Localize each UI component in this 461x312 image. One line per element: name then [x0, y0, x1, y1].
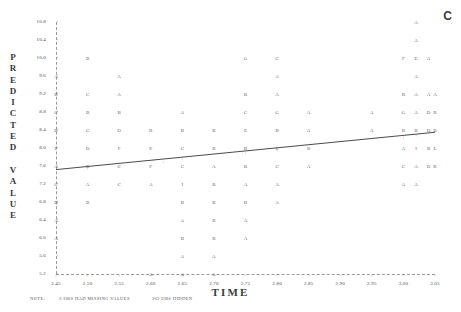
data-point: B — [275, 128, 278, 133]
y-tick-label: 7.2 — [39, 180, 46, 188]
fit-plus-marker: + — [86, 166, 89, 171]
data-point: B — [149, 128, 152, 133]
data-point: B — [244, 92, 247, 97]
data-point: A — [402, 182, 406, 187]
scatter-plot-root: C P R E D I C T E D V A L U E 10.8+10.4+… — [0, 0, 461, 312]
x-tick: +2.75 — [241, 274, 251, 286]
data-point: C — [54, 110, 57, 115]
data-point: B — [212, 146, 215, 151]
data-point: A — [427, 56, 431, 61]
corner-letter-c: C — [443, 9, 452, 23]
y-tick-label: 6.4 — [39, 216, 46, 224]
fit-plus-marker: + — [162, 159, 165, 164]
data-point: A — [54, 218, 58, 223]
data-point: B — [86, 110, 89, 115]
data-point: C — [117, 182, 120, 187]
data-point: A — [414, 110, 418, 115]
data-point: F — [118, 146, 121, 151]
x-tick-mark: + — [335, 274, 345, 278]
data-point: A — [149, 182, 153, 187]
data-point: B — [212, 128, 215, 133]
data-point: B — [402, 92, 405, 97]
data-point: A — [244, 218, 248, 223]
data-point: A — [54, 236, 58, 241]
data-point: C — [275, 56, 278, 61]
fit-plus-marker: + — [402, 134, 405, 139]
footnote-label: NOTE: — [30, 296, 45, 301]
fit-plus-marker: + — [118, 164, 121, 169]
data-point: A — [427, 92, 431, 97]
data-point: B — [433, 110, 436, 115]
data-point: C — [275, 164, 278, 169]
y-tick-mark: + — [55, 18, 60, 26]
data-point: A — [275, 74, 279, 79]
fit-plus-marker: + — [415, 133, 418, 138]
data-point: G — [402, 110, 406, 115]
data-point: E — [244, 128, 247, 133]
y-tick-label: 9.6 — [39, 72, 46, 80]
data-point: B — [427, 146, 430, 151]
x-tick-mark: + — [304, 274, 314, 278]
data-point: D — [427, 128, 431, 133]
data-point: D — [86, 146, 90, 151]
data-point: A — [181, 218, 185, 223]
footnote: NOTE:6 OBS HAD MISSING VALUES363 OBS HID… — [30, 296, 192, 301]
data-point: A — [414, 20, 418, 25]
data-point: D — [54, 200, 58, 205]
data-point: B — [54, 92, 57, 97]
x-tick: +2.55 — [114, 274, 124, 286]
y-tick-label: 6.8 — [39, 198, 46, 206]
data-point: A — [212, 272, 216, 277]
x-tick-mark: + — [367, 274, 377, 278]
data-point: A — [149, 272, 153, 277]
y-tick-mark: + — [55, 252, 60, 260]
data-point: A — [117, 74, 121, 79]
data-point: D — [427, 164, 431, 169]
data-point: L — [433, 146, 436, 151]
data-point: A — [275, 200, 279, 205]
y-tick-label: 5.6 — [39, 252, 46, 260]
data-point: A — [117, 92, 121, 97]
data-point: I — [181, 182, 183, 187]
data-point: B — [54, 128, 57, 133]
x-tick: +2.50 — [83, 274, 93, 286]
fit-plus-marker: + — [181, 157, 184, 162]
data-point: A — [414, 74, 418, 79]
x-tick-mark: + — [430, 274, 440, 278]
y-tick-label: 10.8 — [36, 18, 46, 26]
data-point: A — [414, 92, 418, 97]
x-tick-mark: + — [272, 274, 282, 278]
data-point: A — [181, 110, 185, 115]
data-point: F — [402, 56, 405, 61]
y-tick-label: 10.0 — [36, 54, 46, 62]
data-point: A — [402, 146, 406, 151]
footnote-text-1: 6 OBS HAD MISSING VALUES — [59, 296, 130, 301]
data-point: B — [86, 56, 89, 61]
data-point: A — [414, 164, 418, 169]
data-point: C — [86, 128, 89, 133]
data-point: A — [414, 38, 418, 43]
data-point: A — [275, 182, 279, 187]
data-point: A — [212, 164, 216, 169]
data-point: B — [433, 164, 436, 169]
data-point: B — [212, 200, 215, 205]
x-tick: +3.00 — [399, 274, 409, 286]
data-point: D — [117, 128, 121, 133]
x-tick-mark: + — [114, 274, 124, 278]
y-tick-label: 6.0 — [39, 234, 46, 242]
y-tick-label: 7.6 — [39, 162, 46, 170]
data-point: C — [181, 164, 184, 169]
data-point: G — [244, 56, 248, 61]
y-tick-label: 8.4 — [39, 126, 46, 134]
footnote-text-2: 363 OBS HIDDEN — [152, 296, 193, 301]
data-point: A — [181, 254, 185, 259]
y-tick-mark: + — [55, 54, 60, 62]
data-point: C — [86, 92, 89, 97]
data-point: C — [402, 164, 405, 169]
data-point: B — [244, 164, 247, 169]
data-point: C — [54, 182, 57, 187]
fit-plus-marker: + — [276, 148, 279, 153]
data-point: A — [307, 128, 311, 133]
data-point: D — [427, 110, 431, 115]
y-tick-mark: + — [55, 36, 60, 44]
